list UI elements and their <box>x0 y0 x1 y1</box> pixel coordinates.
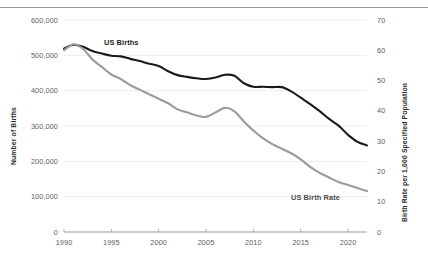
us-birth-rate-series-label: US Birth Rate <box>291 193 340 202</box>
x-axis-tick: 2000 <box>139 238 179 247</box>
y-axis-right-tick: 60 <box>377 46 385 55</box>
series-paths <box>64 44 367 191</box>
x-axis-tick: 2010 <box>233 238 273 247</box>
chart-plot-area <box>0 0 428 260</box>
y-axis-left-tick: 500,000 <box>6 51 58 60</box>
dual-axis-line-chart: 0100,000200,000300,000400,000500,000600,… <box>0 0 428 260</box>
y-axis-right-tick: 40 <box>377 106 385 115</box>
y-axis-right-tick: 20 <box>377 167 385 176</box>
x-axis-tick: 2020 <box>328 238 368 247</box>
y-axis-right-tick: 70 <box>377 16 385 25</box>
y-axis-right-tick: 30 <box>377 137 385 146</box>
us-births-series-label: US Births <box>104 38 139 47</box>
y-axis-right-title: Birth Rate per 1,000 Specified Populatio… <box>401 83 408 222</box>
x-axis-tick: 2015 <box>281 238 321 247</box>
y-axis-right-tick: 0 <box>377 228 381 237</box>
y-axis-left-title: Number of Births <box>10 107 17 165</box>
x-axis-tick: 2005 <box>186 238 226 247</box>
y-axis-left-tick: 400,000 <box>6 86 58 95</box>
x-axis-tick: 1995 <box>91 238 131 247</box>
y-axis-left-tick: 100,000 <box>6 192 58 201</box>
y-axis-right-tick: 50 <box>377 76 385 85</box>
series-line-us-birth-rate <box>64 44 367 191</box>
y-axis-right-tick: 10 <box>377 197 385 206</box>
y-axis-left-tick: 600,000 <box>6 16 58 25</box>
y-axis-left-tick: 0 <box>6 228 58 237</box>
series-line-us-births <box>64 45 367 146</box>
x-axis-tick: 1990 <box>44 238 84 247</box>
